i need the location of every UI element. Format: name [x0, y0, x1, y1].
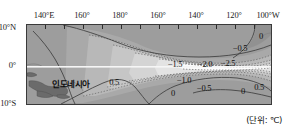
top-tick-label-3: 160°	[150, 10, 165, 20]
contour-label-2: −2.0	[198, 59, 212, 69]
top-tick-label-5: 120°	[226, 10, 241, 20]
contour-label-8: 0.5	[254, 82, 264, 92]
contour-label-6: 0	[171, 88, 175, 98]
top-tick-label-1: 160°	[74, 10, 89, 20]
contour-label-5: −0.5	[197, 83, 211, 93]
contour-label-10: 0	[259, 31, 263, 41]
left-tick-label-0: 10°N	[0, 22, 16, 32]
left-tick-label-1: 0°	[9, 60, 16, 70]
contour-map-plot: 0.5 −1.5 −2.0 −2.5 −1.0 −0.5 0 0 0.5 −0.…	[26, 24, 272, 105]
sst-anomaly-figure: 140°E 160° 180° 160° 140° 120° 100°W 10°…	[0, 0, 290, 129]
contour-label-4: −1.0	[177, 75, 191, 85]
contour-label-3: −2.5	[221, 58, 235, 68]
top-tick-label-2: 180°	[112, 10, 127, 20]
top-tick-label-0: 140°E	[34, 10, 54, 20]
contour-label-0: 0.5	[109, 77, 119, 87]
contour-label-7: 0	[241, 86, 245, 96]
unit-caption: (단위: ℃)	[246, 113, 282, 125]
left-tick-label-2: 10°S	[0, 98, 16, 108]
contour-label-1: −1.5	[168, 59, 182, 69]
indonesia-label: 인도네시아	[52, 77, 89, 89]
contour-label-9: −0.5	[233, 43, 247, 53]
top-tick-label-6: 100°W	[256, 10, 279, 20]
top-tick-label-4: 140°	[188, 10, 203, 20]
